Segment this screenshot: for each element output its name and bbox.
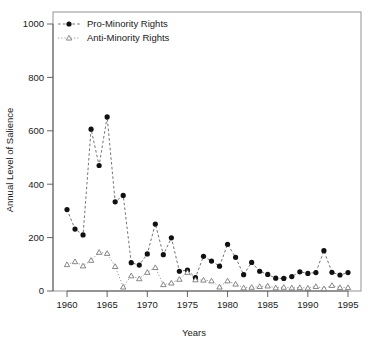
data-point-anti-minority: [121, 284, 126, 289]
x-tick-label: 1980: [217, 299, 238, 310]
data-point-pro-minority: [313, 270, 318, 275]
data-point-pro-minority: [161, 252, 166, 257]
data-point-pro-minority: [345, 270, 350, 275]
x-axis-ticks: 19601965197019751980198519901995: [56, 291, 358, 310]
data-point-pro-minority: [225, 242, 230, 247]
data-point-pro-minority: [329, 270, 334, 275]
data-series-group: [64, 114, 350, 290]
y-tick-label: 1000: [23, 18, 44, 29]
y-tick-label: 800: [28, 72, 44, 83]
data-point-anti-minority: [96, 250, 101, 255]
data-point-pro-minority: [177, 269, 182, 274]
legend-label: Pro-Minority Rights: [87, 18, 168, 29]
data-point-pro-minority: [64, 207, 69, 212]
data-point-anti-minority: [257, 284, 262, 289]
chart-canvas: 19601965197019751980198519901995 0200400…: [0, 0, 368, 346]
data-point-anti-minority: [209, 278, 214, 283]
data-point-pro-minority: [153, 221, 158, 226]
x-tick-label: 1995: [337, 299, 358, 310]
y-axis-ticks: 02004006008001000: [23, 18, 53, 296]
data-point-anti-minority: [169, 280, 174, 285]
data-point-pro-minority: [273, 276, 278, 281]
data-point-anti-minority: [265, 283, 270, 288]
data-point-pro-minority: [217, 264, 222, 269]
data-point-pro-minority: [169, 235, 174, 240]
y-tick-label: 0: [39, 285, 44, 296]
data-point-pro-minority: [72, 226, 77, 231]
data-point-anti-minority: [145, 270, 150, 275]
data-point-anti-minority: [64, 262, 69, 267]
data-point-anti-minority: [345, 285, 350, 290]
data-point-pro-minority: [249, 260, 254, 265]
data-point-anti-minority: [241, 285, 246, 290]
data-point-pro-minority: [137, 263, 142, 268]
data-point-pro-minority: [209, 259, 214, 264]
data-point-anti-minority: [313, 284, 318, 289]
chart-legend: Pro-Minority RightsAnti-Minority Rights: [58, 18, 170, 43]
series-line-anti-minority: [67, 252, 348, 288]
data-point-anti-minority: [80, 263, 85, 268]
x-tick-label: 1975: [177, 299, 198, 310]
data-point-pro-minority: [145, 251, 150, 256]
data-point-pro-minority: [233, 255, 238, 260]
data-point-pro-minority: [88, 127, 93, 132]
data-point-pro-minority: [281, 276, 286, 281]
data-point-pro-minority: [105, 114, 110, 119]
legend-label: Anti-Minority Rights: [87, 32, 170, 43]
y-tick-label: 400: [28, 179, 44, 190]
data-point-anti-minority: [129, 273, 134, 278]
chart-figure: 19601965197019751980198519901995 0200400…: [0, 0, 368, 346]
data-point-anti-minority: [225, 278, 230, 283]
data-point-pro-minority: [305, 271, 310, 276]
data-point-anti-minority: [233, 281, 238, 286]
data-point-pro-minority: [80, 232, 85, 237]
data-point-pro-minority: [121, 193, 126, 198]
x-axis-title: Years: [182, 327, 206, 338]
legend-marker-filled-circle-icon: [66, 21, 71, 26]
data-point-anti-minority: [153, 265, 158, 270]
y-tick-label: 600: [28, 125, 44, 136]
data-point-pro-minority: [289, 274, 294, 279]
data-point-pro-minority: [97, 163, 102, 168]
x-tick-label: 1970: [137, 299, 158, 310]
data-point-pro-minority: [201, 254, 206, 259]
x-tick-label: 1965: [97, 299, 118, 310]
data-point-pro-minority: [337, 272, 342, 277]
data-point-anti-minority: [321, 286, 326, 291]
y-tick-label: 200: [28, 232, 44, 243]
data-point-anti-minority: [217, 284, 222, 289]
data-point-pro-minority: [257, 269, 262, 274]
data-point-anti-minority: [177, 277, 182, 282]
data-point-pro-minority: [297, 269, 302, 274]
x-tick-label: 1985: [257, 299, 278, 310]
data-point-anti-minority: [88, 258, 93, 263]
data-point-anti-minority: [281, 285, 286, 290]
y-axis-title: Annual Level of Salience: [4, 108, 15, 213]
data-point-pro-minority: [113, 199, 118, 204]
x-tick-label: 1990: [297, 299, 318, 310]
data-point-anti-minority: [273, 285, 278, 290]
data-point-anti-minority: [112, 264, 117, 269]
data-point-anti-minority: [72, 259, 77, 264]
data-point-pro-minority: [321, 248, 326, 253]
data-point-anti-minority: [161, 282, 166, 287]
data-point-pro-minority: [129, 260, 134, 265]
data-point-anti-minority: [329, 283, 334, 288]
x-tick-label: 1960: [56, 299, 77, 310]
data-point-pro-minority: [241, 272, 246, 277]
data-point-pro-minority: [265, 272, 270, 277]
